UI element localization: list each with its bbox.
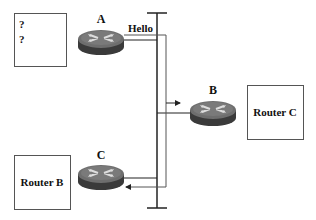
router-c-icon: [78, 165, 124, 190]
network-bus: [147, 13, 167, 208]
unknown-entry-1: ?: [19, 18, 25, 30]
router-b-label: B: [209, 83, 217, 97]
router-a-label: A: [97, 12, 106, 26]
router-c-label: C: [97, 148, 106, 162]
router-c-box-label: Router C: [253, 106, 297, 118]
network-diagram: A B C Hello ? ? Router C Router B: [0, 0, 316, 220]
hello-message-path: [124, 35, 180, 187]
router-b-box-label: Router B: [21, 176, 65, 188]
router-b-icon: [190, 101, 236, 126]
router-a-icon: [78, 30, 124, 55]
unknown-entry-2: ?: [19, 33, 25, 45]
hello-label: Hello: [128, 22, 154, 34]
